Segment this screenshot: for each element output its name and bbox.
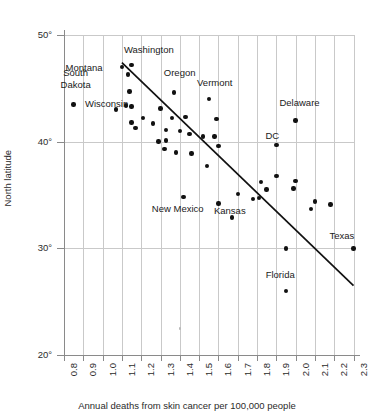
data-point-south-dakota [71,102,75,106]
x-gridline [296,35,297,355]
data-point [291,186,295,190]
x-tick-mark [238,355,239,361]
x-tick-label: 1.4 [184,363,195,376]
x-gridline [257,35,258,355]
data-point [162,147,166,151]
x-tick-mark [122,355,123,361]
x-tick-mark [161,355,162,361]
data-point-oregon [172,90,176,94]
x-tick-mark [199,355,200,361]
data-point [183,115,187,119]
x-tick-label: 1.2 [145,363,156,376]
data-point-dc [274,143,278,147]
point-label-texas: Texas [329,230,354,242]
y-tick-mark [57,248,64,249]
data-point [129,104,133,108]
point-label-new-mexico: New Mexico [152,203,204,215]
x-tick-label: 2.0 [300,363,311,376]
data-point [129,120,133,124]
data-point [187,132,191,136]
y-tick-label: 20° [12,349,52,360]
data-point-vermont [207,97,211,101]
x-tick-mark [103,355,104,361]
data-point [212,134,216,138]
data-point [179,327,182,330]
data-point [127,89,131,93]
x-tick-mark [218,355,219,361]
x-tick-label: 1.6 [222,363,233,376]
data-point [264,187,268,191]
x-tick-mark [257,355,258,361]
x-tick-label: 0.9 [87,363,98,376]
x-gridline [276,35,277,355]
x-tick-mark [141,355,142,361]
y-axis-title: North latitude [2,150,13,207]
x-tick-mark [180,355,181,361]
data-point [274,174,278,178]
y-tick-label: 40° [12,136,52,147]
y-tick-mark [57,355,64,356]
data-point [133,126,137,130]
data-point [216,144,220,148]
point-label-montana: Montana [66,62,103,74]
data-point-washington [129,63,133,67]
y-tick-mark [57,142,64,143]
point-label-oregon: Oregon [164,67,196,79]
y-tick-mark [57,35,64,36]
x-tick-label: 1.0 [107,363,118,376]
data-point [126,72,130,76]
data-point [189,151,193,155]
scatter-plot-figure: North latitude Annual deaths from skin c… [0,0,374,420]
data-point [201,134,205,138]
x-gridline [122,35,123,355]
data-point [236,192,240,196]
data-point-delaware [293,118,297,122]
x-tick-label: 1.1 [126,363,137,376]
x-tick-mark [276,355,277,361]
data-point [151,121,155,125]
x-tick-mark [296,355,297,361]
data-point [328,202,332,206]
x-tick-mark [64,355,65,361]
x-tick-label: 1.9 [280,363,291,376]
data-point [156,139,160,143]
x-gridline [334,35,335,355]
x-tick-label: 0.8 [68,363,79,376]
x-tick-label: 2.1 [319,363,330,376]
x-axis-title: Annual deaths from skin cancer per 100,0… [0,400,374,411]
x-tick-mark [334,355,335,361]
x-gridline [103,35,104,355]
y-tick-label: 50° [12,29,52,40]
point-label-washington: Washington [124,44,174,56]
data-point [158,106,162,110]
point-label-kansas: Kansas [214,205,246,217]
x-tick-label: 1.7 [242,363,253,376]
y-gridline [64,248,354,249]
x-tick-label: 2.2 [338,363,349,376]
x-gridline [315,35,316,355]
y-gridline [64,35,354,36]
point-label-delaware: Delaware [279,97,319,109]
x-gridline [354,35,355,355]
point-label-dc: DC [265,130,279,142]
x-gridline [141,35,142,355]
x-tick-mark [354,355,355,361]
x-tick-label: 1.8 [261,363,272,376]
point-label-wisconsin: Wisconsin [85,98,128,110]
data-point [313,199,317,203]
x-tick-mark [83,355,84,361]
data-point-texas [351,246,355,250]
data-point [284,246,288,250]
data-point [174,150,178,154]
x-tick-mark [315,355,316,361]
x-gridline [161,35,162,355]
point-label-vermont: Vermont [197,77,232,89]
x-tick-label: 1.3 [165,363,176,376]
y-gridline [64,142,354,143]
x-tick-label: 2.3 [358,363,369,376]
x-tick-label: 1.5 [203,363,214,376]
y-tick-label: 30° [12,242,52,253]
point-label-florida: Florida [266,269,295,281]
